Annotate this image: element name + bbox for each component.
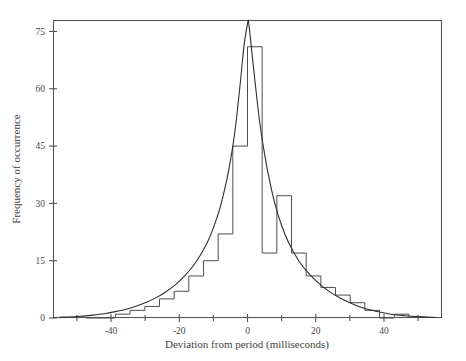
x-tick-label-0: 0: [245, 326, 250, 336]
chart-canvas: 01530456075 -40-2002040 Deviation from p…: [0, 0, 466, 361]
x-tick-label-20: 20: [311, 326, 321, 336]
y-axis-tick-labels: 01530456075: [36, 27, 46, 324]
histogram-figure: 01530456075 -40-2002040 Deviation from p…: [0, 0, 466, 361]
y-tick-label-0: 0: [40, 313, 45, 323]
y-axis-label: Frequency of occurrence: [10, 114, 22, 223]
y-tick-label-15: 15: [36, 256, 46, 266]
histogram-outline: [86, 47, 409, 318]
x-tick-label--40: -40: [105, 326, 118, 336]
x-tick-label--20: -20: [173, 326, 186, 336]
y-tick-label-45: 45: [36, 141, 46, 151]
y-tick-label-75: 75: [36, 27, 46, 37]
x-axis-tick-labels: -40-2002040: [105, 326, 389, 336]
y-tick-label-60: 60: [36, 84, 46, 94]
y-tick-label-30: 30: [36, 199, 46, 209]
x-tick-label-40: 40: [379, 326, 389, 336]
x-axis-label: Deviation from period (milliseconds): [165, 338, 329, 351]
